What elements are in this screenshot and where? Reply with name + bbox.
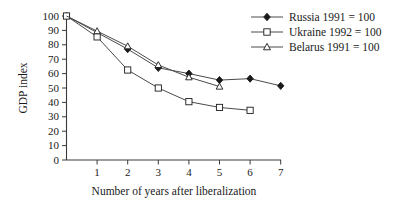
series-line (67, 16, 220, 87)
y-axis-ticks (62, 16, 67, 160)
open-square-icon (63, 13, 69, 19)
open-square-icon (125, 67, 131, 73)
y-tick-label: 70 (48, 53, 60, 65)
open-square-icon (155, 85, 161, 91)
filled-diamond-icon (278, 82, 284, 89)
y-tick-label: 30 (48, 110, 60, 122)
x-axis-ticks (97, 160, 281, 165)
chart-series-layer (63, 12, 284, 113)
open-square-icon (94, 34, 100, 40)
x-tick-label: 5 (217, 166, 223, 178)
open-triangle-icon (155, 62, 162, 68)
legend-entry-ukraine: Ukraine 1992 = 100 (251, 26, 382, 38)
y-tick-label: 100 (43, 10, 60, 22)
y-tick-label: 80 (48, 38, 60, 50)
legend-entry-russia: Russia 1991 = 100 (251, 11, 375, 23)
y-tick-label: 60 (48, 67, 60, 79)
chart-figure: 0 10 20 30 40 50 60 70 80 90 100 1 2 3 (0, 0, 405, 205)
line-chart: 0 10 20 30 40 50 60 70 80 90 100 1 2 3 (0, 0, 405, 205)
filled-diamond-icon (264, 13, 271, 21)
y-tick-label: 90 (48, 24, 60, 36)
y-tick-label: 40 (48, 96, 60, 108)
x-tick-label: 3 (156, 166, 162, 178)
x-tick-label: 6 (247, 166, 253, 178)
y-tick-label: 10 (48, 139, 60, 151)
data-series (67, 16, 223, 89)
legend-label: Belarus 1991 = 100 (289, 41, 380, 53)
open-square-icon (216, 104, 222, 110)
filled-diamond-icon (247, 75, 253, 82)
legend-entry-belarus: Belarus 1991 = 100 (251, 41, 380, 53)
y-tick-label: 50 (48, 82, 60, 94)
x-tick-label: 4 (186, 166, 192, 178)
y-tick-label: 0 (54, 154, 60, 166)
open-triangle-icon (94, 28, 101, 34)
open-square-icon (264, 29, 270, 35)
y-tick-label: 20 (48, 125, 60, 137)
open-square-icon (186, 99, 192, 105)
x-tick-label: 2 (125, 166, 131, 178)
legend-label: Ukraine 1992 = 100 (289, 26, 382, 38)
data-series (63, 12, 284, 89)
chart-legend: Russia 1991 = 100 Ukraine 1992 = 100 Bel… (251, 11, 382, 53)
open-square-icon (247, 107, 253, 113)
x-axis-title: Number of years after liberalization (92, 185, 257, 198)
series-line (67, 16, 281, 86)
x-axis-tick-labels: 1 2 3 4 5 6 7 (94, 166, 284, 178)
x-tick-label: 7 (278, 166, 284, 178)
y-axis-tick-labels: 0 10 20 30 40 50 60 70 80 90 100 (43, 10, 60, 166)
x-tick-label: 1 (94, 166, 100, 178)
legend-label: Russia 1991 = 100 (289, 11, 375, 23)
y-axis-title: GDP index (17, 62, 29, 113)
open-triangle-icon (124, 43, 131, 49)
